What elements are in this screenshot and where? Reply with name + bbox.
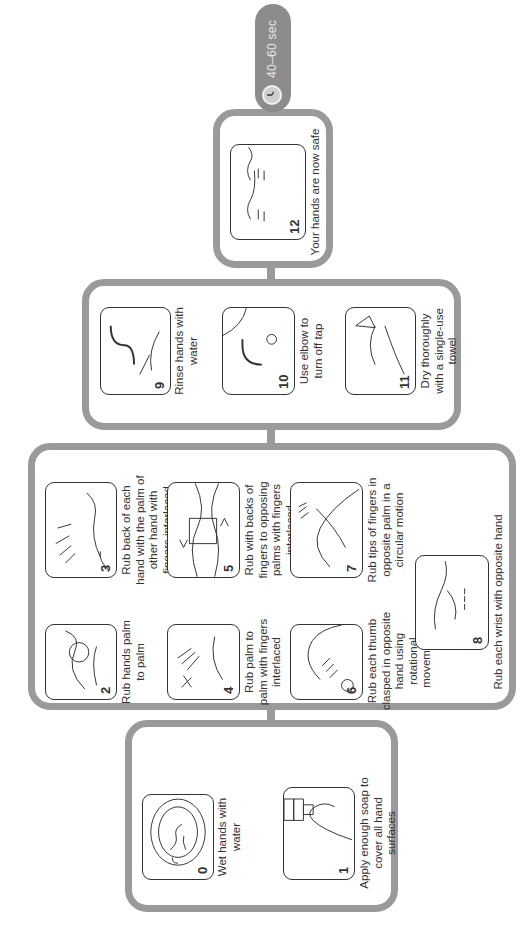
step-2-caption: Rub hands palm to palm [120,617,147,707]
step-7-caption: Rub tips of fingers in opposite palm in … [366,477,407,583]
step-12-caption: Your hands are now safe [309,127,323,257]
step-number: 1 [336,867,351,874]
step-number: 4 [221,687,236,694]
step-number: 9 [152,382,167,389]
step-5-illustration: 5 [167,482,240,578]
duration-badge: 40–60 sec [255,4,291,112]
step-9-illustration: 9 [100,307,171,395]
step-0-illustration: 0 [142,794,214,880]
step-12-illustration: 12 [230,144,306,240]
step-1-caption: Apply enough soap to cover all hand surf… [358,777,399,889]
step-0-caption: Wet hands with water [216,789,243,885]
step-number: 5 [221,565,236,572]
step-number: 0 [195,867,210,874]
step-number: 2 [98,687,113,694]
backs-of-fingers-icon [168,483,239,577]
back-of-hand-icon [46,483,116,577]
step-11-caption: Dry thoroughly with a single-use towel [419,303,460,399]
step-10-caption: Use elbow to turn off tap [298,311,325,391]
step-4-illustration: 4 [167,624,240,700]
step-number: 12 [287,220,302,234]
step-number: 11 [397,375,412,389]
step-10-illustration: 10 [222,307,295,395]
step-3-illustration: 3 [45,482,117,578]
fingertips-circular-icon [291,483,362,577]
step-11-illustration: 11 [345,307,416,395]
wrist-rub-icon [416,556,488,649]
soap-dispenser-icon [284,788,354,879]
step-6-illustration: 6 [290,624,363,700]
step-number: 6 [344,687,359,694]
clock-icon [262,85,282,105]
step-9-caption: Rinse hands with water [173,295,200,407]
step-number: 8 [470,637,485,644]
step-2-illustration: 2 [45,624,117,700]
step-number: 10 [276,375,291,389]
step-number: 7 [344,565,359,572]
duration-label: 40–60 sec [265,20,279,78]
step-number: 3 [98,565,113,572]
step-8-caption: Rub each wrist with opposite hand [492,507,506,697]
step-3-caption: Rub back of each hand with the palm of o… [120,473,174,587]
step-8-illustration: 8 [415,555,489,650]
step-4-caption: Rub palm to palm with fingers interlaced [243,617,284,707]
handwashing-diagram: 40–60 sec 0 Wet hands with water 1 Apply… [0,0,530,947]
step-1-illustration: 1 [283,787,355,880]
step-5-caption: Rub with backs of fingers to opposing pa… [243,473,297,587]
step-7-illustration: 7 [290,482,363,578]
